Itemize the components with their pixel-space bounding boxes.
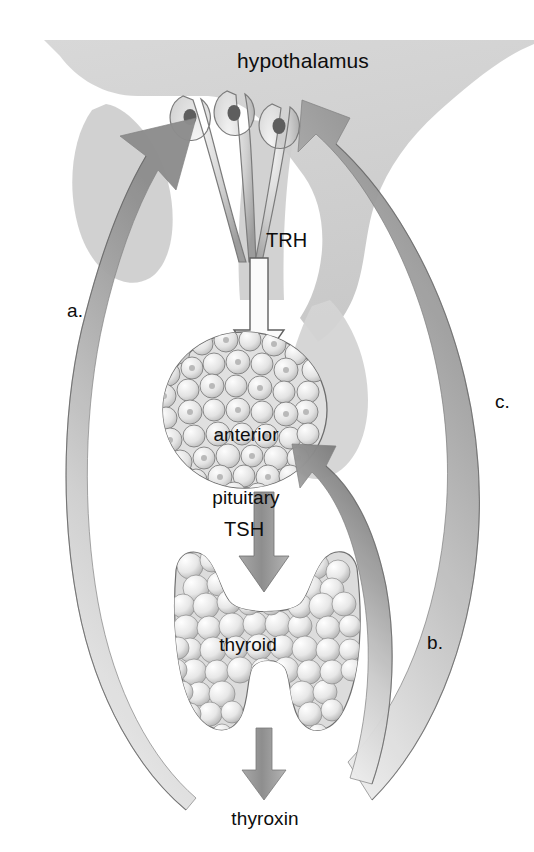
figure-canvas: hypothalamus TRH anterior pituitary TSH … [0, 0, 534, 852]
nucleus-3 [273, 118, 286, 134]
label-trh: TRH [266, 229, 307, 251]
label-tsh: TSH [224, 518, 264, 540]
label-hypothalamus: hypothalamus [237, 49, 369, 73]
label-thyroxin: thyroxin [231, 808, 298, 829]
label-anterior-pituitary-line2: pituitary [212, 487, 279, 508]
nucleus-2 [228, 105, 241, 121]
label-c: c. [495, 391, 510, 412]
label-anterior-pituitary-line1: anterior [212, 424, 279, 445]
label-b: b. [427, 632, 443, 653]
label-thyroid: thyroid [219, 634, 277, 655]
thyroxin-arrow [242, 728, 286, 800]
label-a: a. [67, 300, 83, 321]
